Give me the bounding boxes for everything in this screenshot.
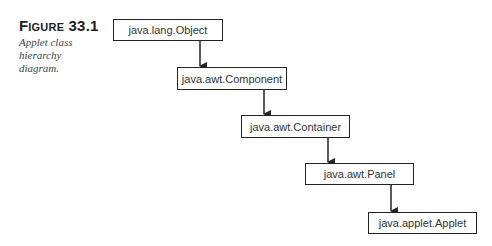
node-java-awt-container: java.awt.Container [241,115,350,138]
node-label: java.lang.Object [129,24,208,36]
node-java-lang-object: java.lang.Object [113,19,223,41]
node-java-awt-panel: java.awt.Panel [305,163,414,185]
node-java-awt-component: java.awt.Component [177,67,287,90]
node-label: java.awt.Component [182,73,282,85]
node-label: java.applet.Applet [379,217,466,229]
node-java-applet-applet: java.applet.Applet [368,212,477,234]
node-label: java.awt.Panel [324,168,396,180]
node-label: java.awt.Container [250,121,341,133]
